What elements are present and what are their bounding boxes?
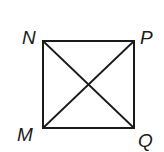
vertex-label-n: N <box>22 27 36 48</box>
vertex-label-m: M <box>17 124 33 145</box>
square-diagram: N P M Q <box>0 0 164 152</box>
vertex-label-p: P <box>140 27 153 48</box>
vertex-label-q: Q <box>138 130 153 151</box>
